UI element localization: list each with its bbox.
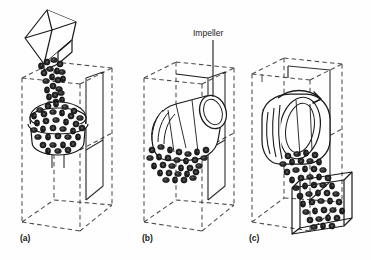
panel-label-c: (c) xyxy=(249,233,260,243)
panel-label-a: (a) xyxy=(20,233,31,243)
figure-canvas: (a) xyxy=(0,0,371,260)
callout-impeller-label: Impeller xyxy=(193,28,223,38)
panel-label-b: (b) xyxy=(142,233,153,243)
